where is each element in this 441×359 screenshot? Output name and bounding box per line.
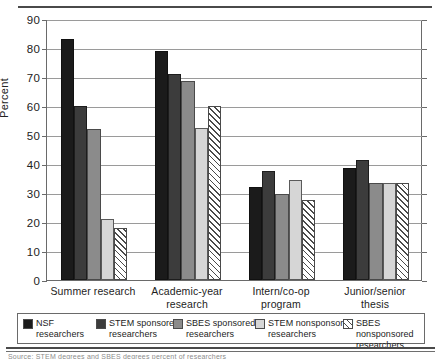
y-axis-tick-label: 70 <box>27 72 40 84</box>
bar <box>155 51 168 280</box>
x-axis-label-line: Summer research <box>46 285 140 298</box>
bar <box>275 194 288 280</box>
bar <box>302 200 315 280</box>
legend-label-line: researchers <box>109 329 179 340</box>
bar <box>396 183 409 280</box>
legend-item[interactable]: STEM nonsponsoredresearchers <box>255 318 353 340</box>
legend-label-line: researchers <box>186 329 255 340</box>
y-axis-tick-right <box>422 78 427 79</box>
y-axis-tick-right <box>422 281 427 282</box>
legend-label-line: STEM sponsored <box>109 318 179 328</box>
legend-label-line: researchers <box>268 329 353 340</box>
x-axis-label-line: Junior/senior <box>328 285 422 298</box>
bar <box>343 168 356 280</box>
y-axis-tick-label: 30 <box>27 188 40 200</box>
y-axis-tick <box>42 281 47 282</box>
legend-label-line: researchers <box>356 340 424 351</box>
legend-swatch-icon <box>255 319 265 329</box>
bar <box>181 81 194 280</box>
legend-label-line: STEM nonsponsored <box>268 318 353 328</box>
y-axis-tick-right <box>422 252 427 253</box>
x-axis-label-line: research <box>140 298 234 311</box>
legend-swatch-icon <box>96 319 106 329</box>
figure-bar-chart: Percent 0102030405060708090 Summer resea… <box>0 0 441 359</box>
legend-label: STEM sponsoredresearchers <box>109 318 179 340</box>
y-axis-tick-label: 40 <box>27 159 40 171</box>
bar <box>262 171 275 280</box>
x-axis-label-line: Academic-year <box>140 285 234 298</box>
x-axis-group-label: Summer research <box>46 285 140 298</box>
bars-layer <box>47 20 422 280</box>
legend-label-line: SBES sponsored <box>186 318 255 328</box>
legend-label: SBES sponsoredresearchers <box>186 318 255 340</box>
chart-legend: NSFresearchersSTEM sponsoredresearchersS… <box>17 313 425 344</box>
bar <box>208 106 221 280</box>
source-note: Source: STEM degrees and SBES degrees pe… <box>8 353 428 359</box>
bar <box>61 39 74 280</box>
bar <box>168 74 181 280</box>
x-axis-label-line: program <box>234 298 328 311</box>
y-axis-tick-right <box>422 223 427 224</box>
y-axis-tick-label: 10 <box>27 246 40 258</box>
y-axis-tick-label: 80 <box>27 43 40 55</box>
bar <box>87 129 100 280</box>
bar <box>369 183 382 280</box>
y-axis-tick-right <box>422 194 427 195</box>
x-axis-group-label: Intern/co-opprogram <box>234 285 328 310</box>
legend-swatch-icon <box>23 319 33 329</box>
y-axis-title: Percent <box>0 78 10 118</box>
x-axis-group-label: Academic-yearresearch <box>140 285 234 310</box>
figure-bottom-rule <box>6 347 435 349</box>
x-axis-label-line: Intern/co-op <box>234 285 328 298</box>
y-axis-tick-label: 0 <box>33 275 40 287</box>
bar <box>74 106 87 280</box>
bar <box>249 187 262 280</box>
bar <box>101 219 114 280</box>
legend-item[interactable]: NSFresearchers <box>23 318 84 340</box>
plot-area: 0102030405060708090 <box>46 20 422 281</box>
y-axis-tick-label: 90 <box>27 14 40 26</box>
y-axis-tick-right <box>422 107 427 108</box>
y-axis-tick-label: 60 <box>27 101 40 113</box>
y-axis-tick-right <box>422 136 427 137</box>
figure-bottom-rule-thin <box>6 351 435 352</box>
bar <box>383 183 396 280</box>
figure-top-rule <box>18 6 432 8</box>
legend-swatch-icon <box>173 319 183 329</box>
y-axis-tick-right <box>422 165 427 166</box>
legend-label-line: researchers <box>36 329 84 340</box>
x-axis-label-line: thesis <box>328 298 422 311</box>
legend-item[interactable]: STEM sponsoredresearchers <box>96 318 179 340</box>
y-axis-tick-right <box>422 20 427 21</box>
legend-item[interactable]: SBES sponsoredresearchers <box>173 318 255 340</box>
x-axis-group-label: Junior/seniorthesis <box>328 285 422 310</box>
y-axis-tick-label: 20 <box>27 217 40 229</box>
legend-label-line: SBES nonsponsored <box>356 318 414 339</box>
bar <box>356 160 369 280</box>
legend-label: NSFresearchers <box>36 318 84 340</box>
legend-label-line: NSF <box>36 318 54 328</box>
bar <box>289 180 302 280</box>
bar <box>114 228 127 280</box>
legend-swatch-icon <box>343 319 353 329</box>
legend-label: STEM nonsponsoredresearchers <box>268 318 353 340</box>
bar <box>195 128 208 280</box>
y-axis-tick-label: 50 <box>27 130 40 142</box>
y-axis-tick-right <box>422 49 427 50</box>
